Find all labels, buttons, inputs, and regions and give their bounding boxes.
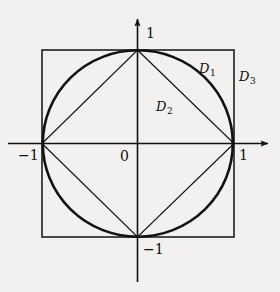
region-label-d3-subscript: 3 <box>249 76 255 86</box>
math-figure: 1 1 −1 −1 0 D1 D2 D3 <box>0 0 280 292</box>
region-label-d2-subscript: 2 <box>166 106 172 116</box>
region-label-d3: D3 <box>239 70 256 86</box>
axis-label-x-left: −1 <box>18 148 39 162</box>
axis-label-y-top: 1 <box>146 26 155 40</box>
figure-canvas <box>0 0 280 292</box>
region-label-d1-base: D <box>199 61 209 76</box>
axis-label-x-right: 1 <box>239 148 248 162</box>
axis-label-y-bottom: −1 <box>143 242 164 256</box>
region-label-d2: D2 <box>156 100 173 116</box>
axis-label-origin: 0 <box>120 149 129 163</box>
region-label-d2-base: D <box>156 99 166 114</box>
region-label-d3-base: D <box>239 69 249 84</box>
region-label-d1-subscript: 1 <box>209 68 215 78</box>
region-label-d1: D1 <box>199 62 216 78</box>
